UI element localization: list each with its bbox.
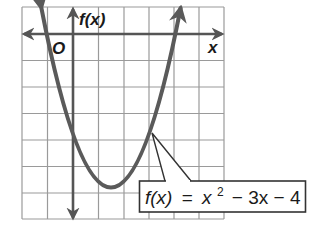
equation-lhs: f(x): [145, 187, 172, 208]
y-axis-label: f(x): [79, 10, 106, 29]
origin-label: O: [52, 39, 65, 58]
function-graph: f(x) x O f(x) = x 2 − 3x − 4: [0, 0, 331, 233]
equation-term1-exp: 2: [217, 185, 224, 199]
equation-term1-base: x: [201, 187, 213, 208]
x-axis-label: x: [207, 38, 219, 57]
equation-label: f(x) = x 2 − 3x − 4: [140, 179, 306, 212]
equation-equals: =: [182, 187, 193, 208]
equation-rest: − 3x − 4: [232, 187, 301, 208]
